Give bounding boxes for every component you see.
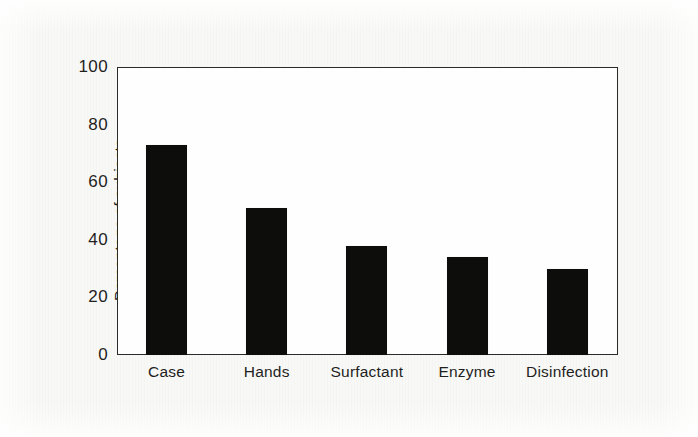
y-tick-label-60: 60	[64, 172, 108, 192]
bar-surfactant	[346, 246, 387, 355]
bars-layer	[117, 67, 618, 355]
scanned-page-background: Percentage of subjects 100 80 60 40 20 0…	[0, 0, 698, 437]
x-tick-label-surfactant: Surfactant	[331, 363, 404, 381]
x-axis-tick-labels: Case Hands Surfactant Enzyme Disinfectio…	[117, 363, 618, 389]
y-tick-label-100: 100	[64, 57, 108, 77]
bar-case	[146, 145, 187, 355]
bar-chart: Percentage of subjects 100 80 60 40 20 0…	[0, 0, 698, 437]
x-tick-label-enzyme: Enzyme	[438, 363, 495, 381]
y-tick-label-20: 20	[64, 287, 108, 307]
y-tick-label-0: 0	[64, 345, 108, 365]
bar-disinfection	[547, 269, 588, 355]
bar-hands	[246, 208, 287, 355]
y-tick-label-40: 40	[64, 230, 108, 250]
y-tick-label-80: 80	[64, 115, 108, 135]
y-axis-tick-labels: 100 80 60 40 20 0	[60, 67, 108, 355]
x-tick-label-hands: Hands	[244, 363, 290, 381]
x-tick-label-case: Case	[148, 363, 185, 381]
bar-enzyme	[447, 257, 488, 355]
x-tick-label-disinfection: Disinfection	[526, 363, 609, 381]
